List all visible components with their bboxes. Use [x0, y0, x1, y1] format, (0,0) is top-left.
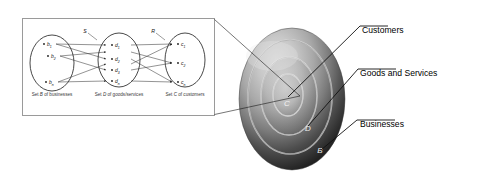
figure-canvas: C D B: [0, 0, 477, 182]
sphere-letter-b: B: [317, 146, 323, 155]
relation-label-r: R: [151, 28, 155, 34]
caption-set-d: Set D of goods/services: [95, 92, 144, 97]
sphere-letter-c: C: [284, 99, 290, 108]
callout-label-businesses: Businesses: [360, 113, 404, 131]
figure-svg: C D B: [0, 0, 477, 182]
sphere-graphic: C D B: [239, 28, 345, 170]
callout-label-customers: Customers: [362, 19, 404, 37]
caption-set-b: Set B of businesses: [32, 92, 73, 97]
callout-text-goods-and-services: Goods and Services: [360, 68, 437, 78]
set-captions: Set B of businesses Set D of goods/servi…: [32, 92, 206, 97]
callout-text-businesses: Businesses: [360, 119, 404, 129]
caption-set-c: Set C of customers: [165, 92, 205, 97]
relation-label-s: S: [83, 28, 87, 34]
callout-label-goods-and-services: Goods and Services: [360, 62, 437, 80]
callout-text-customers: Customers: [362, 25, 404, 35]
